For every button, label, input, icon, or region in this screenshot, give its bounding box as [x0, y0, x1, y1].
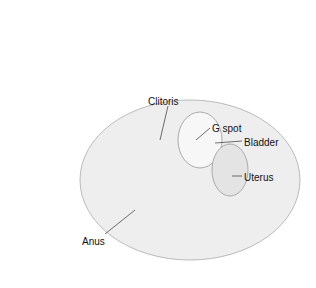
label-uterus: Uterus: [244, 172, 273, 183]
anatomical-diagram: Clitoris G spot Bladder Uterus Anus: [0, 0, 316, 288]
label-anus: Anus: [82, 236, 105, 247]
label-bladder: Bladder: [244, 137, 278, 148]
label-clitoris: Clitoris: [148, 96, 179, 107]
label-g-spot: G spot: [212, 123, 241, 134]
